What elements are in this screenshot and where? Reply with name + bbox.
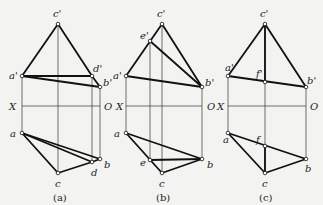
edge-line [265,159,306,173]
point-label: f' [255,68,262,79]
axis-label-o: O [104,101,112,112]
point-label: b [104,159,110,170]
point-marker [263,171,267,175]
edge-line [162,24,202,87]
point-label: c' [157,8,165,19]
edge-line [150,159,202,160]
projection-drawing: XOc'a'd'b'adbc(a)XOc'e'a'b'aebc(b)XOc'a'… [0,0,323,205]
axis-label-o: O [310,101,318,112]
point-label: a [10,128,16,139]
panel-b: XOc'e'a'b'aebc(b) [113,8,215,203]
point-marker [263,80,267,84]
point-marker [90,160,94,164]
point-label: c [159,178,165,189]
panel-caption: (a) [53,192,67,203]
point-marker [148,158,152,162]
point-marker [20,131,24,135]
point-label: b [207,159,213,170]
edge-line [162,159,202,173]
axis-label-o: O [207,101,215,112]
axis-label-x: X [115,101,124,112]
point-marker [263,22,267,26]
point-marker [98,85,102,89]
panel-a: XOc'a'd'b'adbc(a) [8,8,112,203]
orthographic-projection-figure: XOc'a'd'b'adbc(a)XOc'e'a'b'aebc(b)XOc'a'… [0,0,323,205]
point-marker [160,22,164,26]
point-marker [98,157,102,161]
axis-label-x: X [216,101,225,112]
panel-c: XOc'a'f'b'afbc(c) [216,8,318,203]
point-marker [20,74,24,78]
point-label: e' [140,30,149,41]
edge-line [58,24,92,76]
point-label: d [91,167,97,178]
point-marker [200,85,204,89]
edge-line [22,76,100,87]
point-marker [124,74,128,78]
point-label: b [305,163,311,174]
point-label: a' [9,70,18,81]
point-marker [148,39,152,43]
panel-caption: (b) [156,192,170,203]
point-marker [56,171,60,175]
point-label: a' [113,70,122,81]
point-label: b' [307,75,316,86]
point-marker [90,74,94,78]
point-marker [263,144,267,148]
edge-line [22,24,58,76]
point-marker [304,157,308,161]
edge-line [265,24,306,87]
point-label: b' [103,77,112,88]
point-marker [124,131,128,135]
edge-line [58,162,92,173]
point-label: c' [53,8,61,19]
point-label: a' [225,62,234,73]
point-marker [200,157,204,161]
point-label: a [114,128,120,139]
axis-label-x: X [8,101,17,112]
point-label: b' [205,77,214,88]
point-label: a [223,134,229,145]
point-marker [56,22,60,26]
point-marker [226,74,230,78]
point-marker [160,171,164,175]
panel-caption: (c) [259,192,273,203]
point-label: c [262,178,268,189]
point-label: c' [260,8,268,19]
point-label: e [140,157,146,168]
point-label: d' [93,63,102,74]
point-label: c [55,178,61,189]
